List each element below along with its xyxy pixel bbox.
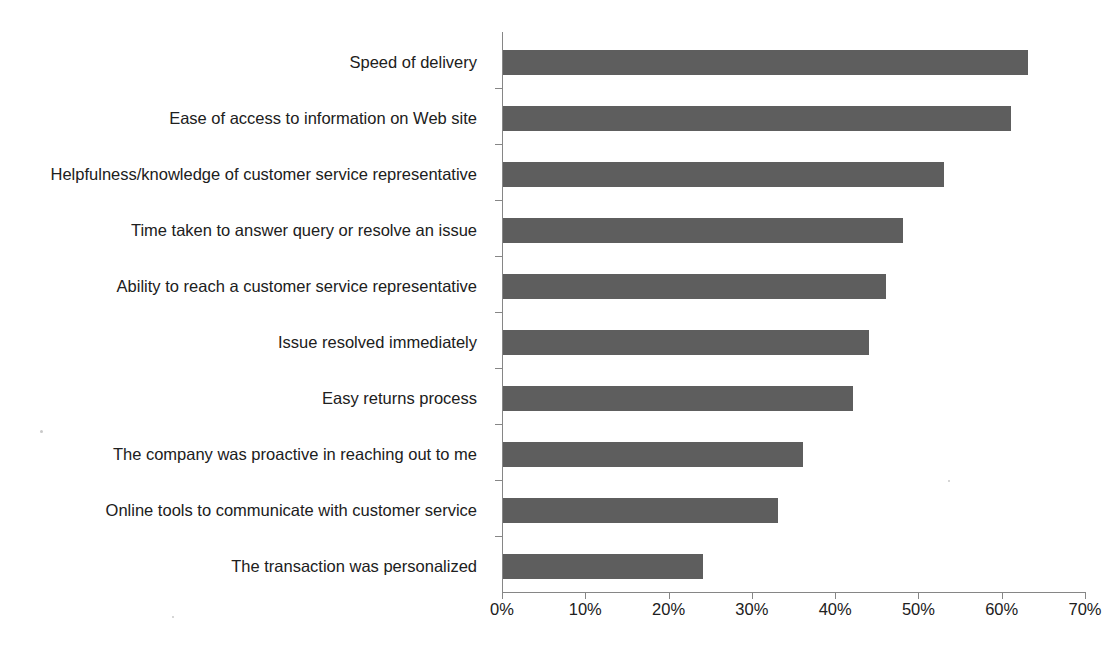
bar <box>503 162 944 187</box>
value-tick <box>585 592 586 599</box>
category-label: Ability to reach a customer service repr… <box>7 275 477 297</box>
bar <box>503 274 886 299</box>
value-label: 50% <box>902 599 935 619</box>
category-tick <box>495 144 502 145</box>
value-tick <box>669 592 670 599</box>
category-label: Speed of delivery <box>7 51 477 73</box>
value-tick <box>752 592 753 599</box>
bar <box>503 330 869 355</box>
bar <box>503 442 803 467</box>
category-tick <box>495 424 502 425</box>
value-label: 40% <box>819 599 852 619</box>
category-axis-labels: Speed of deliveryEase of access to infor… <box>0 32 487 592</box>
category-tick <box>495 480 502 481</box>
bar <box>503 386 853 411</box>
bar <box>503 554 703 579</box>
category-tick <box>495 368 502 369</box>
value-axis-labels: 0%10%20%30%40%50%60%70% <box>502 599 1102 629</box>
category-tick <box>495 536 502 537</box>
value-axis-line <box>502 592 1086 593</box>
bar <box>503 498 778 523</box>
category-tick <box>495 200 502 201</box>
category-label: Helpfulness/knowledge of customer servic… <box>7 163 477 185</box>
category-label: Issue resolved immediately <box>7 331 477 353</box>
plot-area <box>502 32 1085 592</box>
category-label: Online tools to communicate with custome… <box>7 499 477 521</box>
bar <box>503 106 1011 131</box>
value-tick <box>835 592 836 599</box>
value-tick <box>1002 592 1003 599</box>
bar <box>503 50 1028 75</box>
bar-chart: Speed of deliveryEase of access to infor… <box>0 0 1115 649</box>
bar <box>503 218 903 243</box>
value-label: 30% <box>735 599 768 619</box>
value-label: 20% <box>652 599 685 619</box>
category-label: Time taken to answer query or resolve an… <box>7 219 477 241</box>
value-label: 70% <box>1068 599 1101 619</box>
category-label: The transaction was personalized <box>7 555 477 577</box>
category-label: Easy returns process <box>7 387 477 409</box>
scan-speck <box>40 430 43 433</box>
category-tick <box>495 256 502 257</box>
value-label: 10% <box>569 599 602 619</box>
category-tick <box>495 88 502 89</box>
value-tick <box>1085 592 1086 599</box>
scan-speck <box>948 480 950 482</box>
scan-speck <box>172 616 174 618</box>
value-label: 0% <box>490 599 514 619</box>
value-tick <box>918 592 919 599</box>
category-label: Ease of access to information on Web sit… <box>7 107 477 129</box>
value-tick <box>502 592 503 599</box>
category-tick <box>495 312 502 313</box>
category-label: The company was proactive in reaching ou… <box>7 443 477 465</box>
value-label: 60% <box>985 599 1018 619</box>
